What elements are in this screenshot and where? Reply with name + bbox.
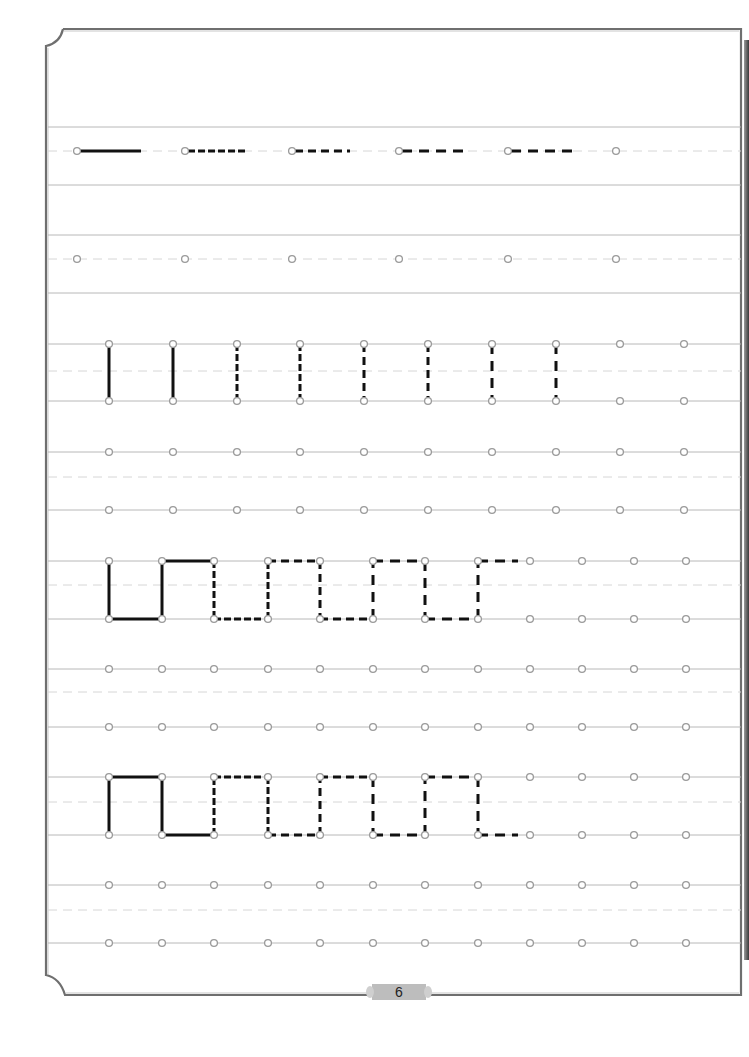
start-dot-icon [317,882,324,889]
start-dot-icon [211,832,218,839]
trace-strokes [80,151,572,835]
start-dot-icon [370,724,377,731]
start-dot-icon [425,449,432,456]
start-dot-icon [631,616,638,623]
start-dot-icon [234,507,241,514]
start-dot-icon [74,256,81,263]
start-dot-icon [106,507,113,514]
start-dot-icon [396,256,403,263]
start-dots [74,148,690,947]
start-dot-icon [579,666,586,673]
start-dot-icon [631,882,638,889]
start-dot-icon [106,724,113,731]
start-dot-icon [289,148,296,155]
start-dot-icon [370,882,377,889]
start-dot-icon [317,558,324,565]
start-dot-icon [553,507,560,514]
start-dot-icon [211,940,218,947]
start-dot-icon [297,341,304,348]
start-dot-icon [613,148,620,155]
start-dot-icon [553,341,560,348]
start-dot-icon [159,940,166,947]
start-dot-icon [553,398,560,405]
start-dot-icon [211,616,218,623]
start-dot-icon [425,507,432,514]
start-dot-icon [159,774,166,781]
start-dot-icon [505,256,512,263]
start-dot-icon [106,666,113,673]
start-dot-icon [370,940,377,947]
start-dot-icon [211,774,218,781]
start-dot-icon [681,449,688,456]
start-dot-icon [234,449,241,456]
start-dot-icon [265,616,272,623]
start-dot-icon [683,616,690,623]
start-dot-icon [170,507,177,514]
start-dot-icon [370,558,377,565]
start-dot-icon [475,558,482,565]
start-dot-icon [159,832,166,839]
start-dot-icon [361,398,368,405]
start-dot-icon [422,724,429,731]
start-dot-icon [475,832,482,839]
start-dot-icon [265,558,272,565]
start-dot-icon [106,616,113,623]
start-dot-icon [297,398,304,405]
start-dot-icon [74,148,81,155]
tracing-area [0,0,749,1057]
start-dot-icon [505,148,512,155]
start-dot-icon [683,666,690,673]
start-dot-icon [422,832,429,839]
start-dot-icon [211,882,218,889]
start-dot-icon [182,256,189,263]
start-dot-icon [170,398,177,405]
start-dot-icon [422,558,429,565]
start-dot-icon [106,882,113,889]
start-dot-icon [579,832,586,839]
start-dot-icon [527,666,534,673]
start-dot-icon [106,341,113,348]
start-dot-icon [361,507,368,514]
start-dot-icon [170,341,177,348]
start-dot-icon [317,616,324,623]
start-dot-icon [422,616,429,623]
start-dot-icon [265,940,272,947]
start-dot-icon [317,774,324,781]
start-dot-icon [475,616,482,623]
start-dot-icon [297,507,304,514]
page-frame-border-inner [48,31,739,993]
start-dot-icon [613,256,620,263]
start-dot-icon [527,558,534,565]
start-dot-icon [159,616,166,623]
start-dot-icon [289,256,296,263]
start-dot-icon [579,882,586,889]
start-dot-icon [631,774,638,781]
start-dot-icon [425,341,432,348]
start-dot-icon [683,724,690,731]
start-dot-icon [159,666,166,673]
start-dot-icon [211,558,218,565]
start-dot-icon [297,449,304,456]
start-dot-icon [361,341,368,348]
start-dot-icon [489,507,496,514]
start-dot-icon [681,507,688,514]
start-dot-icon [106,940,113,947]
start-dot-icon [475,774,482,781]
start-dot-icon [159,558,166,565]
page-frame-border [46,29,741,995]
start-dot-icon [579,616,586,623]
start-dot-icon [265,882,272,889]
start-dot-icon [683,558,690,565]
start-dot-icon [579,940,586,947]
start-dot-icon [265,724,272,731]
start-dot-icon [422,666,429,673]
start-dot-icon [422,940,429,947]
start-dot-icon [579,724,586,731]
start-dot-icon [159,882,166,889]
start-dot-icon [234,341,241,348]
start-dot-icon [617,449,624,456]
start-dot-icon [211,666,218,673]
start-dot-icon [265,666,272,673]
start-dot-icon [475,724,482,731]
start-dot-icon [681,341,688,348]
